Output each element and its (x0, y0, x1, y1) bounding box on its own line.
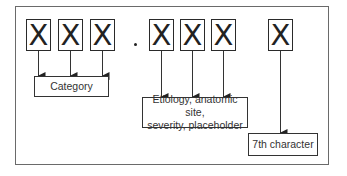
etiology-label-line2: severity, placeholder (147, 119, 243, 132)
decimal-point (134, 43, 137, 46)
etiology-label-box: Etiology, anatomic site, severity, place… (142, 97, 248, 128)
char-box-3: X (90, 19, 115, 51)
char-box-6: X (211, 19, 236, 51)
char-box-4: X (149, 19, 174, 51)
char-box-5: X (180, 19, 205, 51)
char-box-7: X (268, 19, 293, 51)
seventh-character-label: 7th character (252, 138, 313, 151)
seventh-character-label-box: 7th character (248, 133, 318, 156)
char-box-1: X (26, 19, 51, 51)
category-label-box: Category (34, 76, 109, 97)
category-label: Category (50, 80, 93, 93)
char-box-2: X (58, 19, 83, 51)
etiology-label-line1: Etiology, anatomic site, (143, 93, 247, 119)
